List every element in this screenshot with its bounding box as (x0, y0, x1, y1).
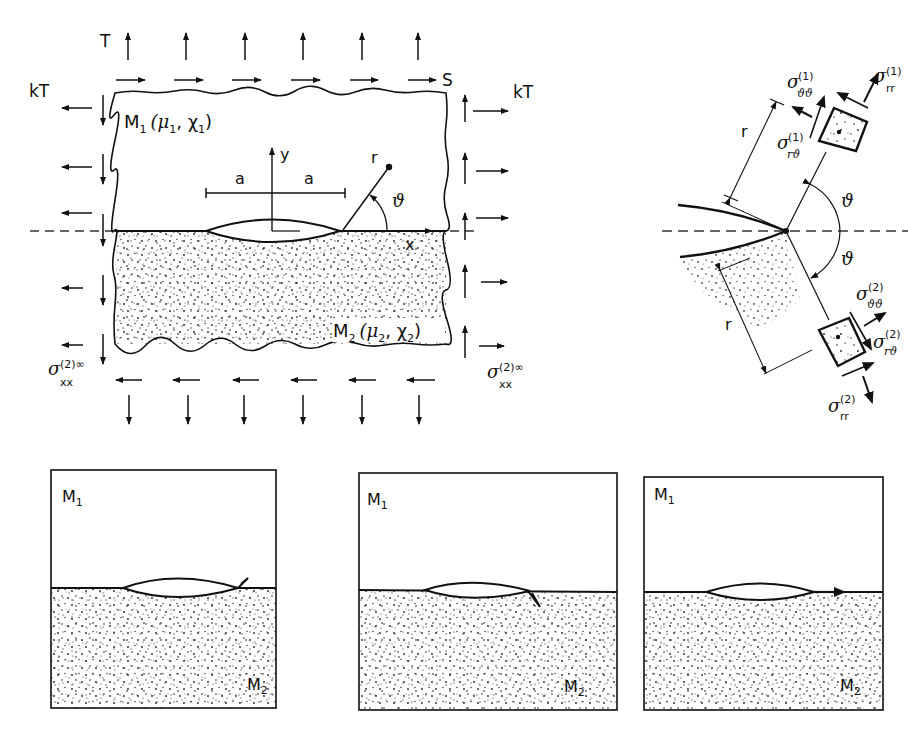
panel-m1-label: M1 (62, 487, 83, 509)
svg-text:(1): (1) (886, 65, 902, 78)
top-normal-load-arrows (128, 33, 418, 60)
svg-text:ϑϑ: ϑϑ (797, 87, 813, 100)
lower-angle-arc (811, 231, 840, 278)
svg-text:M1(μ1, χ1): M1(μ1, χ1) (124, 111, 212, 136)
svg-text:rϑ: rϑ (787, 148, 800, 161)
crack-path-panel-along-interface: M1 M2 (644, 477, 883, 710)
left-lateral-label: kT (29, 81, 50, 101)
svg-text:xx: xx (499, 378, 513, 391)
upper-angle-arc (810, 184, 840, 231)
upper-radius-label: r (741, 122, 748, 141)
x-axis-label: x (405, 235, 414, 254)
far-field-stress-right-label: σ (2)∞ xx (487, 361, 524, 391)
svg-text:(1): (1) (798, 70, 814, 83)
shear-load-label: S (442, 70, 453, 90)
angle-arc (370, 195, 387, 230)
svg-text:(2): (2) (840, 393, 856, 406)
angle-label: ϑ (392, 190, 405, 211)
sigma-rt-1-arrow-b (838, 93, 868, 108)
sigma-rr-2-arrow (863, 376, 872, 402)
left-lateral-load-arrows (62, 108, 92, 345)
svg-text:xx: xx (60, 376, 74, 389)
sigma-rr-2-label: σ (2) rr (828, 393, 856, 423)
svg-text:(2): (2) (868, 281, 884, 294)
upper-radial-line (786, 152, 826, 231)
svg-text:rr: rr (886, 82, 895, 95)
sigma-tt-1-label: σ (1) ϑϑ (787, 70, 814, 100)
svg-text:ϑϑ: ϑϑ (867, 298, 883, 311)
sigma-tt-1-arrow (793, 107, 812, 117)
sigma-rt-2-arrow-b (842, 363, 873, 376)
material-m2-label: M2(μ2, χ2) (332, 318, 444, 345)
half-length-label-left: a (235, 169, 245, 188)
bottom-normal-load-arrows (129, 395, 419, 424)
lower-radius-label: r (725, 315, 732, 334)
upper-stress-element (819, 108, 867, 151)
svg-text:rϑ: rϑ (884, 345, 897, 358)
panel-m1-label: M1 (654, 485, 675, 507)
svg-text:(2)∞: (2)∞ (499, 361, 524, 374)
crack-path-panel-kink-into-m2: M1 M2 (359, 473, 617, 710)
radius-label: r (371, 148, 378, 167)
crack-path-panel-kink-into-m1: M1 M2 (51, 470, 276, 708)
crack-tip-detail: r σ (1) ϑϑ σ (1) rr σ (1) rϑ ϑ ϑ (662, 65, 908, 423)
lower-angle-label: ϑ (841, 248, 854, 269)
main-panel: x y a a r ϑ T (29, 31, 534, 424)
y-axis-label: y (280, 145, 289, 164)
sigma-tt-2-label: σ (2) ϑϑ (856, 281, 884, 311)
panel-m1-label: M1 (367, 490, 388, 512)
svg-text:(2)∞: (2)∞ (60, 358, 85, 371)
top-load-label: T (99, 31, 111, 51)
figure-canvas: x y a a r ϑ T (0, 0, 908, 731)
crack-upper-face (678, 205, 786, 231)
svg-text:rr: rr (840, 410, 849, 423)
sigma-rt-1-label: σ (1) rϑ (777, 131, 804, 161)
sigma-tt-2-arrow (864, 313, 885, 326)
svg-text:(1): (1) (788, 131, 804, 144)
radius-line (343, 167, 389, 230)
svg-text:(2): (2) (885, 328, 901, 341)
right-lateral-load-arrows (473, 111, 508, 346)
upper-radius-dimension (730, 102, 776, 198)
half-length-label-right: a (304, 169, 314, 188)
upper-angle-label: ϑ (841, 190, 854, 211)
far-field-stress-left-label: σ (2)∞ xx (48, 358, 85, 389)
field-point (386, 164, 392, 170)
kink-branch-up (238, 578, 248, 588)
sigma-rr-1-label: σ (1) rr (874, 65, 902, 95)
right-lateral-label: kT (513, 82, 534, 102)
material-m1-label: M1(μ1, χ1) (124, 111, 212, 136)
sigma-rt-2-label: σ (2) rϑ (873, 328, 901, 358)
